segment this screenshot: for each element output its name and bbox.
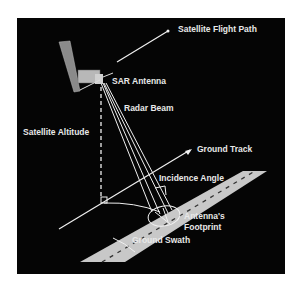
label-radar-beam: Radar Beam — [124, 104, 174, 113]
label-ground-track: Ground Track — [197, 145, 252, 154]
sar-geometry-diagram — [0, 0, 302, 292]
flight-path-line — [117, 31, 168, 62]
label-flight-path: Satellite Flight Path — [178, 25, 257, 34]
label-sar-antenna: SAR Antenna — [112, 77, 166, 86]
label-ground-swath: Ground Swath — [132, 236, 190, 245]
ground-track-arrow-icon — [185, 149, 192, 155]
ground-swath-strip — [80, 171, 267, 262]
flight-path-arrow-icon — [167, 30, 170, 33]
label-altitude: Satellite Altitude — [23, 128, 89, 137]
label-footprint-2: Footprint — [184, 223, 221, 232]
label-footprint-1: Antenna's — [184, 212, 225, 221]
label-incidence-angle: Incidence Angle — [159, 174, 224, 183]
